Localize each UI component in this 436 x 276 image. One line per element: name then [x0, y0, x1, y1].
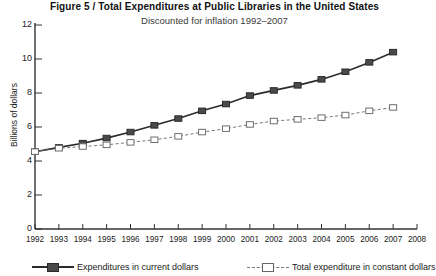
data-point-marker — [270, 88, 277, 94]
x-tick-label: 2008 — [402, 236, 432, 244]
data-point-marker — [103, 142, 110, 148]
y-axis-tick-labels: 024681012 — [8, 0, 32, 236]
data-point-marker — [199, 129, 206, 135]
data-point-marker — [294, 117, 301, 123]
data-point-marker — [127, 129, 134, 135]
y-tick-label: 12 — [10, 20, 32, 29]
legend-swatch-dashed — [247, 262, 289, 272]
data-point-marker — [318, 115, 325, 121]
data-point-marker — [246, 122, 253, 128]
data-point-marker — [175, 116, 182, 122]
data-point-marker — [199, 108, 206, 114]
y-tick-label: 0 — [10, 224, 32, 233]
y-tick-label: 8 — [10, 88, 32, 97]
chart-legend: Expenditures in current dollars Total ex… — [0, 259, 429, 275]
data-point-marker — [223, 101, 230, 107]
y-tick-label: 6 — [10, 122, 32, 131]
legend-item-current-dollars[interactable]: Expenditures in current dollars — [32, 260, 199, 273]
y-tick-label: 4 — [10, 156, 32, 165]
data-point-marker — [390, 105, 397, 111]
data-point-marker — [79, 144, 86, 150]
data-point-marker — [151, 137, 158, 143]
legend-item-constant-dollars[interactable]: Total expenditure in constant dollars — [247, 260, 436, 273]
data-point-marker — [342, 112, 349, 118]
data-point-marker — [390, 49, 397, 55]
series-line-1 — [35, 108, 393, 152]
data-point-marker — [366, 108, 373, 114]
data-point-marker — [246, 93, 253, 99]
data-point-marker — [366, 60, 373, 66]
data-point-marker — [342, 69, 349, 75]
data-point-marker — [294, 83, 301, 89]
data-point-marker — [270, 118, 277, 124]
data-point-marker — [175, 134, 182, 140]
data-point-marker — [127, 140, 134, 146]
data-point-marker — [151, 123, 158, 129]
data-point-marker — [32, 149, 39, 155]
series-line-0 — [35, 52, 393, 152]
series-layer — [32, 49, 397, 154]
data-point-marker — [223, 126, 230, 131]
y-tick-label: 10 — [10, 54, 32, 63]
legend-label-current-dollars: Expenditures in current dollars — [77, 262, 199, 272]
legend-swatch-solid — [32, 262, 74, 272]
data-point-marker — [318, 77, 325, 83]
legend-label-constant-dollars: Total expenditure in constant dollars — [292, 262, 436, 272]
data-point-marker — [103, 135, 110, 141]
y-tick-label: 2 — [10, 190, 32, 199]
data-point-marker — [55, 146, 62, 152]
